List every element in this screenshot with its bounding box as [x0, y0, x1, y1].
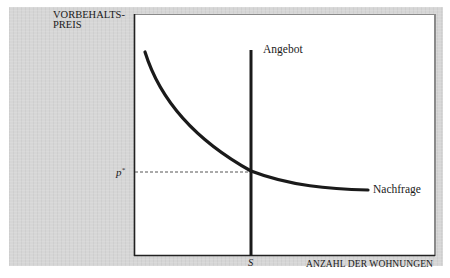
y-axis-label-line2: PREIS — [53, 20, 125, 30]
equilibrium-price-label: p* — [116, 165, 125, 178]
x-axis-label: ANZAHL DER WOHNUNGEN — [306, 259, 433, 270]
demand-curve — [145, 52, 368, 190]
chart-svg — [0, 0, 450, 278]
supply-quantity-label: S — [248, 257, 253, 268]
supply-label: Angebot — [263, 44, 303, 55]
demand-label: Nachfrage — [373, 184, 421, 195]
price-star: * — [122, 166, 126, 174]
y-axis-label: VORBEHALTS- PREIS — [53, 10, 125, 30]
